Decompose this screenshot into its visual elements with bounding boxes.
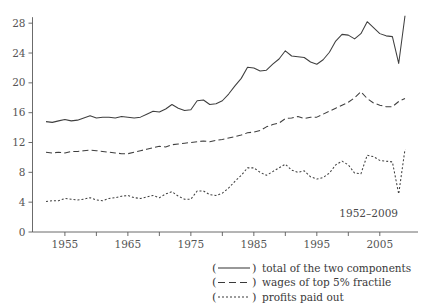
- legend-entry-2: ()profits paid out: [212, 290, 344, 304]
- x-tick-label-1985: 1985: [240, 238, 267, 250]
- x-tick-label-1955: 1955: [52, 238, 79, 250]
- legend-entry-1: ()wages of top 5% fractile: [212, 275, 391, 289]
- legend-entry-0: ()total of the two components: [212, 261, 411, 275]
- y-tick-label-12: 12: [12, 136, 25, 148]
- x-axis-tick-labels: 195519651975198519952005: [52, 238, 394, 250]
- series-line-1: [46, 92, 405, 154]
- y-tick-label-24: 24: [12, 47, 26, 59]
- y-tick-label-0: 0: [19, 226, 26, 238]
- y-tick-label-16: 16: [12, 106, 26, 118]
- line-chart-canvas: 0481216202428 195519651975198519952005 1…: [0, 0, 429, 307]
- y-axis-ticks: [29, 23, 33, 232]
- x-tick-label-2005: 2005: [366, 238, 393, 250]
- legend-label-2: profits paid out: [262, 291, 344, 303]
- y-tick-label-4: 4: [19, 196, 26, 208]
- series-line-2: [46, 149, 405, 201]
- y-axis-tick-labels: 0481216202428: [12, 17, 26, 238]
- chart-figure: 0481216202428 195519651975198519952005 1…: [0, 0, 429, 307]
- y-tick-label-8: 8: [19, 166, 26, 178]
- x-tick-label-1965: 1965: [115, 238, 142, 250]
- y-axis: 0481216202428: [12, 17, 32, 238]
- legend-close-paren: ): [252, 261, 257, 275]
- series-line-0: [46, 16, 405, 123]
- data-series-layer: [46, 16, 405, 202]
- x-tick-label-1975: 1975: [177, 238, 204, 250]
- legend-open-paren: (: [212, 290, 217, 304]
- x-axis-ticks: [65, 232, 380, 236]
- legend-open-paren: (: [212, 261, 217, 275]
- legend-close-paren: ): [252, 290, 257, 304]
- x-tick-label-1995: 1995: [303, 238, 330, 250]
- x-axis: 195519651975198519952005: [33, 232, 419, 250]
- legend-open-paren: (: [212, 275, 217, 289]
- legend-label-1: wages of top 5% fractile: [262, 276, 391, 288]
- date-range-annotation: 1952–2009: [339, 207, 398, 219]
- legend-label-0: total of the two components: [262, 262, 411, 274]
- y-tick-label-28: 28: [12, 17, 25, 29]
- legend-close-paren: ): [252, 275, 257, 289]
- y-tick-label-20: 20: [12, 76, 25, 88]
- chart-legend: ()total of the two components()wages of …: [212, 261, 411, 304]
